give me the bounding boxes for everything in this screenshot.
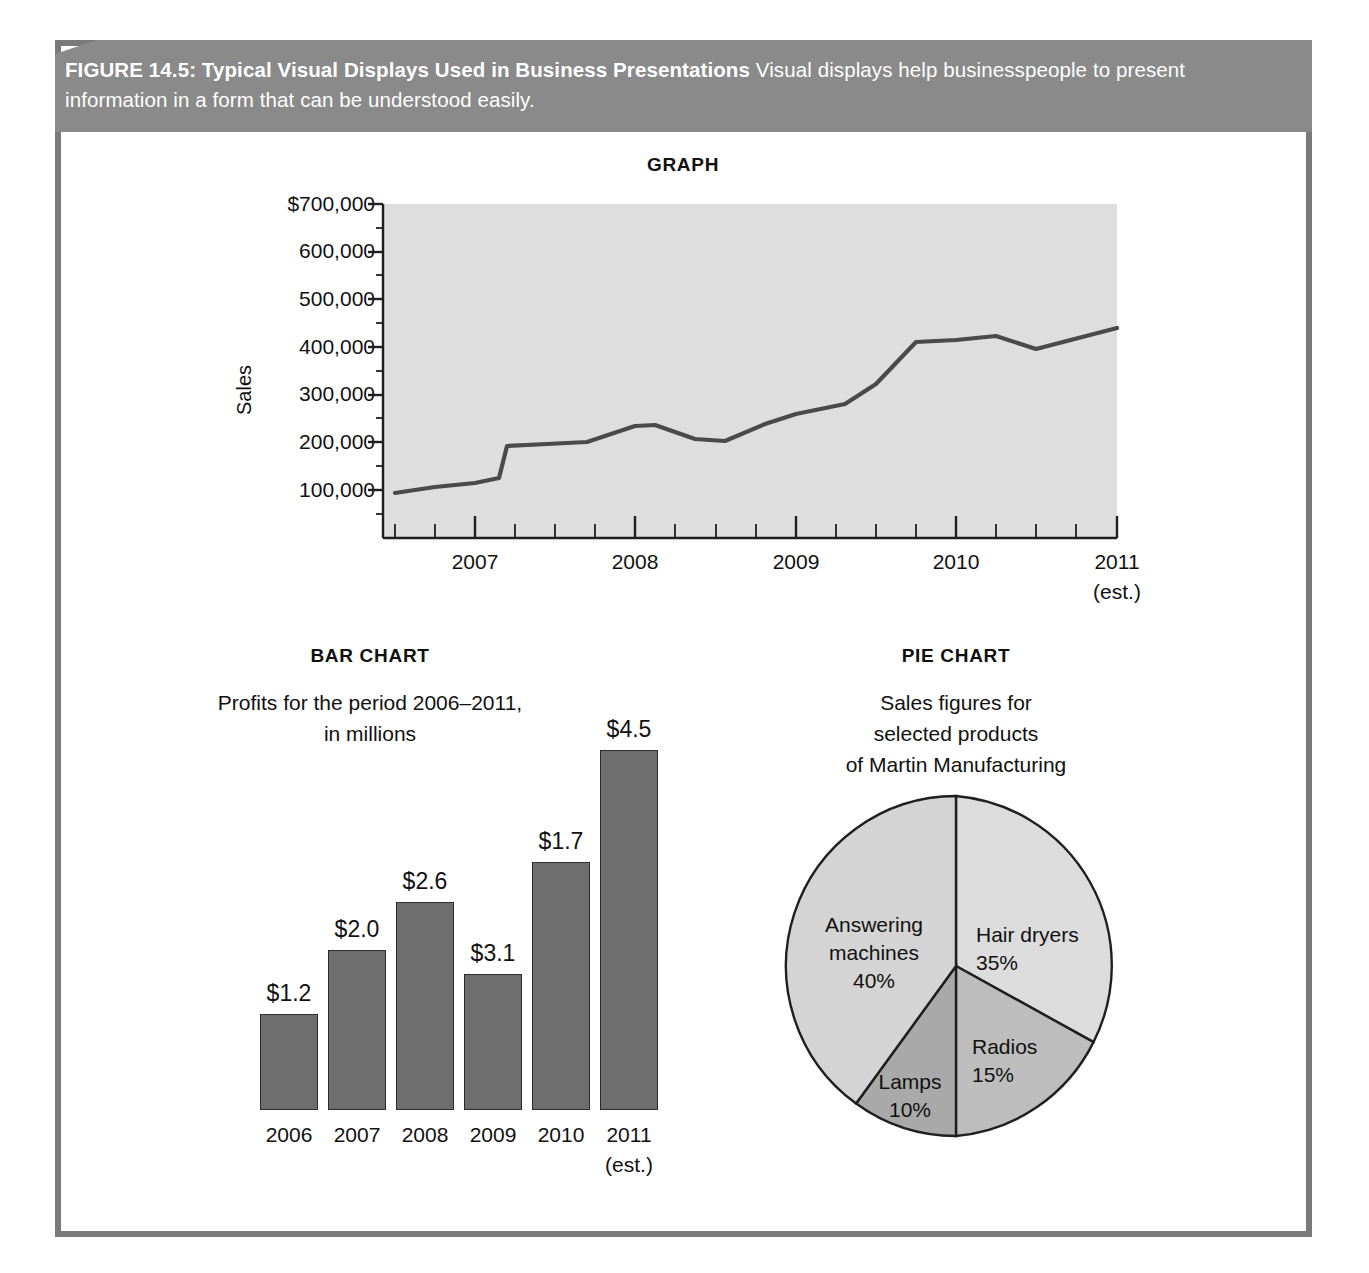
line-graph-section: GRAPH Sales $700,000 600,000 500,000 400… [55, 132, 1312, 632]
bar-2010[interactable] [532, 862, 590, 1110]
x-tick-2011: 2011 [1057, 550, 1177, 574]
pie-label-lamps-name: Lamps [865, 1068, 955, 1096]
bar-value-2008: $2.6 [365, 868, 485, 895]
graph-y-ticks [368, 204, 383, 490]
x-tick-2008: 2008 [575, 550, 695, 574]
pie-label-hair-dryers-name: Hair dryers [976, 921, 1156, 949]
bar-value-2010: $1.7 [501, 828, 621, 855]
bar-value-2006: $1.2 [229, 980, 349, 1007]
pie-label-answering-machines-name-2: machines [804, 939, 944, 967]
pie-svg [700, 605, 1312, 1205]
bar-value-2007: $2.0 [297, 916, 417, 943]
bar-value-2011: $4.5 [569, 716, 689, 743]
bar-category-2011: 2011 [569, 1123, 689, 1147]
pie-chart-section: PIE CHART Sales figures for selected pro… [700, 605, 1312, 1205]
bar-value-2009: $3.1 [433, 940, 553, 967]
pie-label-answering-machines-percent: 40% [804, 967, 944, 995]
pie-label-answering-machines-name-1: Answering [804, 911, 944, 939]
graph-x-major-ticks [475, 516, 1117, 538]
pie-label-hair-dryers: Hair dryers 35% [976, 921, 1156, 977]
bar-2007[interactable] [328, 950, 386, 1110]
figure-root: FIGURE 14.5: Typical Visual Displays Use… [0, 0, 1369, 1273]
graph-x-minor-ticks [395, 524, 1076, 538]
pie-label-radios-name: Radios [972, 1033, 1112, 1061]
bar-2006[interactable] [260, 1014, 318, 1110]
x-tick-2007: 2007 [415, 550, 535, 574]
pie-label-radios-percent: 15% [972, 1061, 1112, 1089]
x-tick-2011-est-note: (est.) [1057, 580, 1177, 604]
pie-label-answering-machines: Answering machines 40% [804, 911, 944, 995]
figure-label: FIGURE 14.5: Typical Visual Displays Use… [65, 58, 750, 81]
pie-label-hair-dryers-percent: 35% [976, 949, 1156, 977]
bar-2011[interactable] [600, 750, 658, 1110]
graph-axes [383, 204, 1117, 538]
bar-2009[interactable] [464, 974, 522, 1110]
bar-plot-area [55, 605, 695, 1125]
figure-caption: FIGURE 14.5: Typical Visual Displays Use… [59, 40, 1284, 132]
pie-label-lamps: Lamps 10% [865, 1068, 955, 1124]
pie-label-radios: Radios 15% [972, 1033, 1112, 1089]
pie-label-lamps-percent: 10% [865, 1096, 955, 1124]
bar-chart-section: BAR CHART Profits for the period 2006–20… [55, 605, 695, 1205]
x-tick-2010: 2010 [896, 550, 1016, 574]
graph-sales-line [395, 328, 1117, 493]
bar-category-2011-est-note: (est.) [569, 1153, 689, 1177]
x-tick-2009: 2009 [736, 550, 856, 574]
